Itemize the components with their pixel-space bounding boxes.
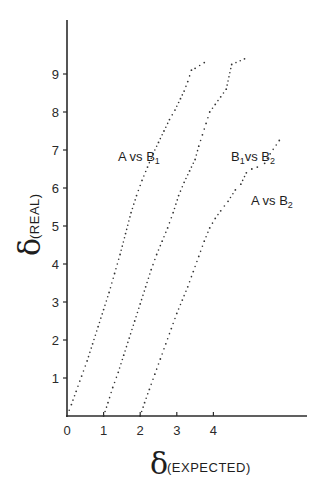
data-point: [214, 218, 216, 220]
data-point: [108, 292, 110, 294]
data-point: [117, 371, 119, 373]
data-point: [224, 205, 226, 207]
series-a-vs-b1: [66, 62, 205, 417]
data-point: [178, 102, 180, 104]
data-point: [145, 171, 147, 173]
data-point: [202, 245, 204, 247]
data-point: [187, 174, 189, 176]
data-point: [106, 300, 108, 302]
data-point: [123, 354, 125, 356]
data-point: [227, 80, 229, 82]
data-point: [97, 326, 99, 328]
data-point: [131, 329, 133, 331]
data-point: [158, 363, 160, 365]
data-point: [135, 316, 137, 318]
data-point: [212, 107, 214, 109]
y-tick-label: 3: [52, 295, 59, 310]
data-point: [225, 88, 227, 90]
x-tick-label: 0: [63, 423, 70, 438]
data-point: [137, 312, 139, 314]
data-point: [156, 254, 158, 256]
data-point: [163, 130, 165, 132]
y-tick-label: 4: [52, 257, 59, 272]
data-point: [74, 395, 76, 397]
data-point: [169, 119, 171, 121]
data-point: [245, 172, 247, 174]
data-point: [181, 94, 183, 96]
data-point: [103, 415, 105, 417]
y-tick-label: 9: [52, 67, 59, 82]
x-tick-label: 2: [137, 423, 144, 438]
data-point: [199, 65, 201, 67]
data-point: [138, 307, 140, 309]
data-point: [171, 217, 173, 219]
data-point: [240, 183, 242, 185]
data-point: [163, 348, 165, 350]
x-axis-title-subscript: (EXPECTED): [167, 460, 251, 475]
data-point: [133, 324, 135, 326]
y-axis-title: δ (REAL): [12, 193, 47, 256]
data-point: [203, 128, 205, 130]
data-point: [124, 350, 126, 352]
data-point: [130, 333, 132, 335]
data-point: [144, 402, 146, 404]
data-point: [126, 346, 128, 348]
x-tick-label: 3: [173, 423, 180, 438]
data-point: [194, 266, 196, 268]
data-point: [123, 241, 125, 243]
series-label-a-vs-b1-main: A vs B: [118, 149, 155, 164]
data-point: [134, 320, 136, 322]
data-point: [232, 193, 234, 195]
data-point: [142, 406, 144, 408]
y-tick-label: 2: [52, 333, 59, 348]
data-point: [128, 220, 130, 222]
data-point: [132, 208, 134, 210]
data-point: [156, 145, 158, 147]
data-point: [217, 100, 219, 102]
data-point: [104, 411, 106, 413]
data-point: [192, 163, 194, 165]
series-label-a-vs-b1: A vs B1: [118, 149, 160, 166]
y-axis-title-subscript: (REAL): [27, 193, 42, 239]
data-point: [202, 134, 204, 136]
data-point: [159, 358, 161, 360]
data-point: [150, 269, 152, 271]
data-point: [175, 203, 177, 205]
data-point: [180, 304, 182, 306]
x-axis-title: δ (EXPECTED): [150, 446, 251, 481]
data-point: [158, 249, 160, 251]
data-point: [133, 203, 135, 205]
data-point: [138, 190, 140, 192]
data-point: [214, 104, 216, 106]
data-point: [114, 273, 116, 275]
data-point: [205, 123, 207, 125]
data-point: [117, 263, 119, 265]
y-tick-label: 1: [52, 371, 59, 386]
data-point: [165, 232, 167, 234]
data-point: [107, 402, 109, 404]
data-point: [160, 245, 162, 247]
data-point: [176, 313, 178, 315]
data-point: [120, 363, 122, 365]
data-point: [146, 282, 148, 284]
data-point: [90, 347, 92, 349]
x-tick-label: 1: [100, 423, 107, 438]
data-point: [167, 123, 169, 125]
data-point: [174, 318, 176, 320]
data-point: [154, 259, 156, 261]
series-label-b1-vs-b2-main: B: [231, 149, 240, 164]
data-point: [66, 415, 68, 417]
data-point: [272, 149, 274, 151]
y-tick-label: 8: [52, 105, 59, 120]
data-point: [139, 303, 141, 305]
data-point: [101, 313, 103, 315]
data-point: [114, 382, 116, 384]
data-point: [160, 138, 162, 140]
data-point: [112, 387, 114, 389]
y-tick-label: 6: [52, 181, 59, 196]
data-point: [235, 62, 237, 64]
data-point: [83, 370, 85, 372]
y-tick-label: 7: [52, 143, 59, 158]
data-point: [100, 317, 102, 319]
data-point: [136, 195, 138, 197]
